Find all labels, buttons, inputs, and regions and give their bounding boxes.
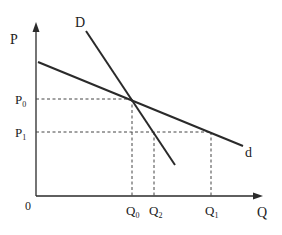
curve-D: [86, 31, 175, 165]
origin-label: 0: [25, 199, 31, 213]
p1-label: P1: [15, 125, 26, 142]
curve-d: [38, 62, 243, 146]
x-axis-arrow-icon: [253, 193, 263, 200]
q1-label: Q1: [205, 203, 218, 220]
curve-D-label: D: [75, 15, 85, 30]
curve-d-label: d: [245, 145, 252, 160]
x-axis-label: Q: [257, 205, 267, 220]
y-axis-arrow-icon: [33, 22, 40, 32]
y-axis-label: P: [10, 32, 18, 47]
p0-label: P0: [15, 92, 26, 109]
q0-label: Q0: [126, 203, 139, 220]
demand-diagram: P Q 0 D d P0 P1 Q0 Q2 Q1: [0, 0, 282, 235]
q2-label: Q2: [149, 203, 162, 220]
